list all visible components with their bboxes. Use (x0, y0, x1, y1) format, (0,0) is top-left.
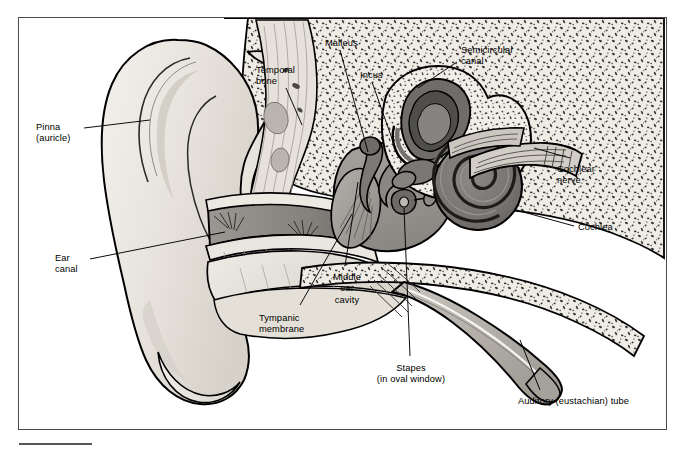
label-cochlea: Cochlea (578, 222, 613, 233)
malleus-head (360, 137, 380, 155)
label-pinna: Pinna (auricle) (36, 122, 70, 145)
label-ear-canal: Ear canal (55, 253, 78, 276)
label-middle-ear-cavity: Middle ear cavity (317, 272, 377, 306)
label-semicircular-canal: Semicircular canal (461, 45, 513, 68)
label-auditory-tube: Auditory (eustachian) tube (518, 396, 629, 407)
label-malleus: Malleus (325, 38, 358, 49)
label-temporal-bone: Temporal bone (256, 65, 295, 88)
label-tympanic-membrane: Tympanic membrane (259, 313, 304, 336)
figure-bottom-rule (19, 443, 92, 445)
ear-anatomy-figure: Pinna (auricle) Ear canal Temporal bone … (0, 0, 682, 452)
mandible-contour (214, 288, 406, 338)
label-cochlear-nerve: Cochlear nerve (557, 164, 595, 187)
label-incus: Incus (360, 70, 383, 81)
label-stapes: Stapes (in oval window) (351, 363, 471, 386)
